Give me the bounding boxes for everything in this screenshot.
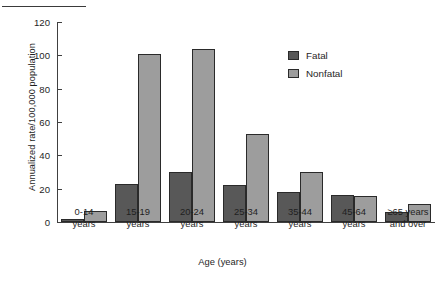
y-tick-label: 60 [39, 117, 50, 128]
x-category-label: 20-24years [165, 206, 219, 229]
x-category-label-line: 35-44 [273, 206, 327, 218]
bar-series-group [57, 22, 435, 222]
y-tick-label: 80 [39, 83, 50, 94]
y-tick-label: 40 [39, 150, 50, 161]
legend-item-nonfatal[interactable]: Nonfatal [288, 66, 343, 80]
plot-area: 020406080100120 [57, 22, 435, 222]
x-category-label-line: years [327, 218, 381, 230]
bar-nonfatal[interactable] [138, 54, 161, 222]
y-tick-label: 120 [34, 17, 50, 28]
x-category-label-line: 25-34 [219, 206, 273, 218]
x-category-label: 35-44years [273, 206, 327, 229]
bar-nonfatal[interactable] [192, 49, 215, 222]
x-category-label: 25-34years [219, 206, 273, 229]
x-category-label-line: ≥65 years [381, 206, 435, 218]
figure-container: Annualized rate/100,000 population 02040… [0, 0, 445, 281]
x-category-label-line: 20-24 [165, 206, 219, 218]
x-category-label-line: years [111, 218, 165, 230]
bar-group [385, 22, 431, 222]
x-category-label-line: years [273, 218, 327, 230]
top-rule-divider [2, 6, 86, 7]
x-category-label-line: years [219, 218, 273, 230]
x-category-label-line: and over [381, 218, 435, 230]
legend-label: Nonfatal [306, 68, 343, 79]
bar-group [115, 22, 161, 222]
y-tick-label: 0 [45, 217, 50, 228]
legend-swatch-icon [288, 51, 299, 60]
bar-group [223, 22, 269, 222]
x-category-label: 0-14years [57, 206, 111, 229]
legend-swatch-icon [288, 69, 299, 78]
x-category-label-line: 0-14 [57, 206, 111, 218]
x-category-label-line: 15-19 [111, 206, 165, 218]
x-category-label: 15-19years [111, 206, 165, 229]
chart-legend: FatalNonfatal [288, 48, 343, 84]
x-category-label: 45-64years [327, 206, 381, 229]
x-category-label-line: years [165, 218, 219, 230]
y-tick-label: 100 [34, 50, 50, 61]
y-tick-label: 20 [39, 183, 50, 194]
x-axis-title: Age (years) [0, 256, 445, 267]
x-category-label-line: years [57, 218, 111, 230]
x-category-label: ≥65 yearsand over [381, 206, 435, 229]
x-category-label-line: 45-64 [327, 206, 381, 218]
bar-group [169, 22, 215, 222]
bar-group [61, 22, 107, 222]
y-axis-title: Annualized rate/100,000 population [27, 12, 37, 222]
legend-label: Fatal [306, 50, 328, 61]
legend-item-fatal[interactable]: Fatal [288, 48, 343, 62]
